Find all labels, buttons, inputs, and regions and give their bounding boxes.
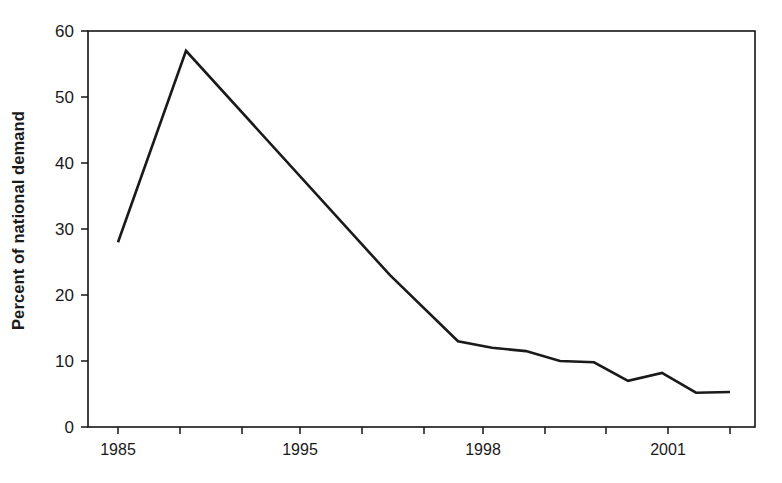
plot-frame [88,31,755,427]
y-tick-label-60: 60 [55,22,74,41]
x-tick-labels: 1985 1995 1998 2001 [100,441,686,458]
x-tick-label-1995: 1995 [282,441,318,458]
y-tick-label-50: 50 [55,88,74,107]
x-tick-marks [118,427,730,434]
y-tick-label-40: 40 [55,154,74,173]
y-tick-label-30: 30 [55,220,74,239]
plot-area: 60 50 40 30 20 10 0 1985 1995 1998 [0,0,782,483]
y-tick-label-20: 20 [55,286,74,305]
y-tick-marks [81,31,88,427]
y-tick-labels: 60 50 40 30 20 10 0 [55,22,74,437]
y-tick-label-10: 10 [55,352,74,371]
x-tick-label-1998: 1998 [465,441,501,458]
x-tick-label-2001: 2001 [650,441,686,458]
y-tick-label-0: 0 [65,418,74,437]
data-series-line [118,51,730,393]
x-tick-label-1985: 1985 [100,441,136,458]
chart-figure: Percent of national demand 60 50 40 30 2… [0,0,782,483]
